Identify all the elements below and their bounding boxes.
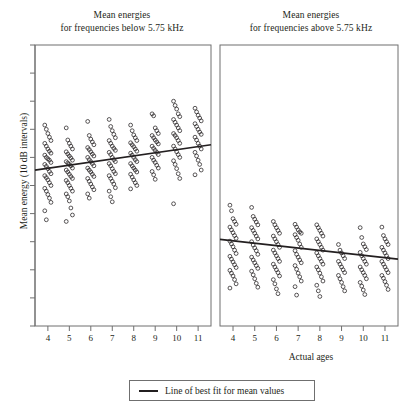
x-axis-tick-label: 7 xyxy=(110,333,115,343)
x-axis-tick-label: 4 xyxy=(231,333,236,343)
data-point xyxy=(273,282,277,286)
data-point xyxy=(364,277,368,281)
panel-frame xyxy=(220,45,398,326)
data-point xyxy=(64,220,68,224)
data-point xyxy=(383,280,387,284)
data-point xyxy=(113,186,117,190)
data-point xyxy=(385,283,389,287)
data-point xyxy=(358,281,362,285)
data-point xyxy=(253,277,257,281)
data-point xyxy=(340,281,344,285)
data-point xyxy=(87,196,91,200)
data-point xyxy=(172,202,176,206)
data-point xyxy=(193,173,197,177)
data-point xyxy=(107,189,111,193)
data-point xyxy=(71,213,75,217)
data-point xyxy=(256,285,260,289)
data-point xyxy=(44,127,48,131)
data-point xyxy=(86,120,90,124)
data-point xyxy=(275,287,279,291)
x-axis-tick-label: 7 xyxy=(296,333,301,343)
data-point xyxy=(64,126,68,130)
data-point xyxy=(315,283,319,287)
data-point xyxy=(230,209,234,213)
data-point xyxy=(49,139,53,143)
data-point xyxy=(341,285,345,289)
data-point xyxy=(130,129,134,133)
data-point xyxy=(173,163,177,167)
panel-frame xyxy=(35,45,211,326)
data-point xyxy=(110,200,114,204)
data-point xyxy=(175,107,179,111)
data-point xyxy=(109,125,113,129)
data-point xyxy=(360,236,364,240)
plot-area: 45678910114567891011 xyxy=(0,0,407,416)
x-axis-tick-label: 5 xyxy=(67,333,72,343)
data-point xyxy=(46,132,50,136)
data-point xyxy=(296,271,300,275)
data-point xyxy=(298,275,302,279)
x-axis-tick-label: 6 xyxy=(274,333,279,343)
data-point xyxy=(49,200,53,204)
data-point xyxy=(172,159,176,163)
data-point xyxy=(358,226,362,230)
data-point xyxy=(234,282,238,286)
data-point xyxy=(338,277,342,281)
data-point xyxy=(254,281,258,285)
data-point xyxy=(250,269,254,273)
x-axis-tick-label: 9 xyxy=(339,333,344,343)
data-point xyxy=(48,196,52,200)
data-point xyxy=(199,168,203,172)
data-point xyxy=(293,249,297,253)
data-point xyxy=(173,104,177,108)
data-point xyxy=(198,163,202,167)
data-point xyxy=(175,167,179,171)
data-point xyxy=(152,173,156,177)
data-point xyxy=(109,195,113,199)
panel-below-5.75-kHz: 4567891011 xyxy=(30,45,211,343)
x-axis-tick-label: 8 xyxy=(131,333,136,343)
x-axis-tick-label: 11 xyxy=(381,333,390,343)
data-point xyxy=(129,123,133,127)
data-point xyxy=(178,177,182,181)
x-axis-tick-label: 9 xyxy=(153,333,158,343)
data-point xyxy=(153,177,157,181)
data-point xyxy=(43,209,47,213)
data-point xyxy=(172,99,176,103)
data-point xyxy=(69,206,73,210)
data-point xyxy=(67,199,71,203)
legend-label: Line of best fit for mean values xyxy=(165,386,284,396)
data-point xyxy=(193,150,197,154)
data-point xyxy=(176,172,180,176)
data-point xyxy=(193,106,197,110)
x-axis-tick-label: 5 xyxy=(252,333,257,343)
data-point xyxy=(343,289,347,293)
data-point xyxy=(228,203,232,207)
x-axis-tick-label: 6 xyxy=(89,333,94,343)
x-axis-tick-label: 8 xyxy=(318,333,323,343)
data-point xyxy=(320,275,324,279)
data-point xyxy=(129,187,133,191)
line-of-best-fit xyxy=(220,239,398,259)
data-point xyxy=(293,264,297,268)
data-point xyxy=(337,243,341,247)
data-point xyxy=(316,289,320,293)
data-point xyxy=(360,284,364,288)
data-point xyxy=(256,252,260,256)
data-point xyxy=(110,129,114,133)
data-point xyxy=(363,293,367,297)
data-point xyxy=(299,279,303,283)
legend-line-swatch xyxy=(139,390,158,392)
data-point xyxy=(321,279,325,283)
data-point xyxy=(361,288,365,292)
data-point xyxy=(250,206,254,210)
data-point xyxy=(380,225,384,229)
data-point xyxy=(318,271,322,275)
data-point xyxy=(318,295,322,299)
x-axis-tick-label: 10 xyxy=(172,333,182,343)
data-point xyxy=(107,118,111,122)
data-point xyxy=(276,292,280,296)
data-point xyxy=(195,154,199,158)
data-point xyxy=(295,267,299,271)
line-of-best-fit xyxy=(35,145,211,170)
